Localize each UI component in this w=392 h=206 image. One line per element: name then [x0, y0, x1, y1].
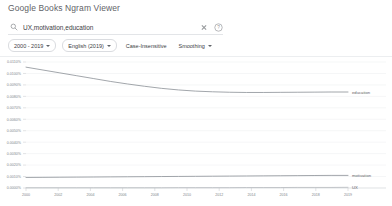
chevron-down-icon [46, 45, 50, 47]
search-icon [10, 23, 18, 31]
y-axis-tick-label: 0.0040% [7, 141, 22, 145]
close-icon[interactable] [200, 23, 208, 31]
x-axis-tick-label: 2000 [22, 193, 30, 197]
series-label-UX: UX [352, 185, 358, 190]
search-bar[interactable]: UX,motivation,education ? [8, 20, 223, 35]
page-title: Google Books Ngram Viewer [8, 3, 120, 13]
help-circle-icon[interactable]: ? [214, 23, 223, 32]
x-axis-tick-label: 2018 [312, 193, 320, 197]
chevron-down-icon [107, 45, 111, 47]
y-axis-tick-label: 0.0080% [7, 95, 22, 99]
ngram-chart[interactable]: 0.0000%0.0010%0.0020%0.0030%0.0040%0.005… [0, 58, 392, 206]
chart-canvas: 0.0000%0.0010%0.0020%0.0030%0.0040%0.005… [0, 58, 392, 206]
chevron-down-icon [208, 45, 212, 47]
x-axis-tick-label: 2006 [119, 193, 127, 197]
x-axis-tick-label: 2004 [86, 193, 94, 197]
y-axis-tick-label: 0.0100% [7, 72, 22, 76]
chip-corpus[interactable]: English (2019) [62, 39, 116, 52]
svg-text:?: ? [217, 25, 220, 30]
x-axis-tick-label: 2014 [247, 193, 255, 197]
y-axis-tick-label: 0.0030% [7, 152, 22, 156]
chip-corpus-label: English (2019) [68, 43, 103, 49]
y-axis-tick-label: 0.0070% [7, 106, 22, 110]
x-axis-tick-label: 2008 [151, 193, 159, 197]
chip-date-range[interactable]: 2000 - 2019 [8, 39, 56, 52]
search-input[interactable]: UX,motivation,education [23, 24, 200, 31]
chip-smoothing-label: Smoothing [179, 43, 205, 49]
x-axis-tick-label: 2012 [215, 193, 223, 197]
x-axis-tick-label: 2010 [183, 193, 191, 197]
y-axis-tick-label: 0.0090% [7, 83, 22, 87]
chip-case-insensitive[interactable]: Case-Insensitive [123, 39, 170, 52]
series-label-motivation: motivation [352, 173, 372, 178]
chip-smoothing[interactable]: Smoothing [176, 39, 215, 52]
y-axis-tick-label: 0.0110% [7, 60, 22, 64]
header-divider [0, 56, 392, 57]
y-axis-tick-label: 0.0020% [7, 163, 22, 167]
x-axis-tick-label: 2016 [280, 193, 288, 197]
series-label-education: education [352, 90, 371, 95]
x-axis-tick-label: 2002 [54, 193, 62, 197]
y-axis-tick-label: 0.0000% [7, 186, 22, 190]
series-line-education[interactable] [26, 67, 348, 92]
y-axis-tick-label: 0.0050% [7, 129, 22, 133]
y-axis-tick-label: 0.0010% [7, 175, 22, 179]
chip-date-range-label: 2000 - 2019 [14, 43, 43, 49]
y-axis-tick-label: 0.0060% [7, 118, 22, 122]
x-axis-tick-label: 2019 [344, 193, 352, 197]
filter-chips: 2000 - 2019 English (2019) Case-Insensit… [8, 39, 215, 52]
chip-case-insensitive-label: Case-Insensitive [126, 43, 167, 49]
